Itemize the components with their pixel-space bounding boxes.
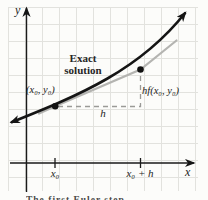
dashed-guides xyxy=(58,73,141,107)
y-axis-label: y xyxy=(15,4,20,16)
start-point-label: (x₀, y₀) xyxy=(26,84,55,96)
rise-label: hf(x₀, y₀) xyxy=(142,85,179,97)
plot-canvas xyxy=(0,0,208,200)
x-axis-label: x xyxy=(185,166,190,178)
euler-method-figure: y x Exact solution (x₀, y₀) hf(x₀, y₀) h… xyxy=(0,0,208,200)
run-label: h xyxy=(97,107,109,119)
tick-label-x0-plus-h: x₀ + h xyxy=(114,167,166,179)
point-x0-y0 xyxy=(52,103,59,110)
exact-solution-label: Exact solution xyxy=(54,52,112,76)
caption-fragment: The first Euler step xyxy=(26,195,156,200)
point-euler-step xyxy=(137,66,144,73)
tick-label-x0: x₀ xyxy=(43,167,67,179)
